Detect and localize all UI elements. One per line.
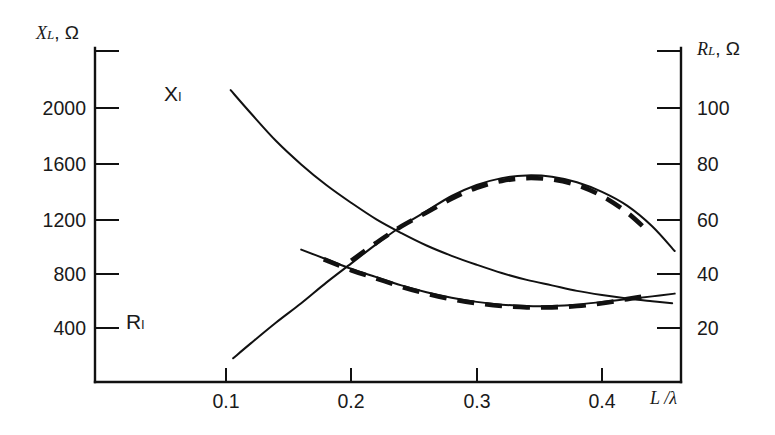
curve-label-rl: Rₗ [126,310,144,334]
right-axis-title-unit: , Ω [715,38,740,59]
right-ticklabel-80: 80 [697,153,719,176]
x-axis-title: L /λ [650,388,677,409]
left-ticklabel-1600: 1600 [2,153,86,176]
right-ticklabel-60: 60 [697,209,719,232]
left-axis-title-unit: , Ω [54,22,79,43]
bottom-ticklabel-0.3: 0.3 [437,390,517,413]
curve-rl-upper [233,175,675,358]
curve-upper-dashed [351,178,647,261]
curve-lower-dashed [324,259,652,307]
right-ticklabel-40: 40 [697,263,719,286]
bottom-ticklabel-0.4: 0.4 [562,390,642,413]
left-ticklabel-400: 400 [2,317,86,340]
right-axis-ticks [657,51,681,328]
left-axis-title-symbol: X [36,23,47,43]
curve-label-xl: Xₗ [164,82,181,106]
right-ticklabel-20: 20 [697,317,719,340]
axis-frame [95,48,681,382]
bottom-ticklabel-0.2: 0.2 [311,390,391,413]
data-curves [231,90,675,358]
left-axis-ticks [95,51,119,328]
left-ticklabel-800: 800 [2,263,86,286]
right-ticklabel-100: 100 [697,97,730,120]
left-axis-title: XL, Ω [36,22,79,44]
left-ticklabel-2000: 2000 [2,97,86,120]
bottom-axis-ticks [226,368,602,382]
left-ticklabel-1200: 1200 [2,209,86,232]
chart-svg [0,0,775,435]
chart-figure: XL, Ω 2000 1600 1200 800 400 RL, Ω 100 8… [0,0,775,435]
right-axis-title-symbol: R [697,39,708,59]
right-axis-title: RL, Ω [697,38,740,60]
bottom-ticklabel-0.1: 0.1 [186,390,266,413]
